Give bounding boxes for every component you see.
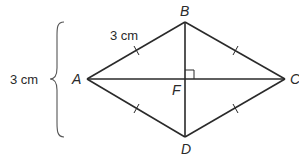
vertex-label-A: A	[71, 71, 81, 87]
vertex-label-D: D	[181, 141, 191, 157]
side-DA	[87, 79, 185, 137]
right-angle-marker	[185, 70, 194, 79]
vertex-label-B: B	[180, 3, 189, 19]
curly-brace	[50, 22, 64, 137]
measurement-side-AB: 3 cm	[110, 28, 138, 43]
vertex-label-C: C	[290, 71, 299, 87]
rhombus-diagram: A B C D F 3 cm 3 cm	[0, 0, 299, 160]
measurement-diagonal-BD: 3 cm	[10, 72, 38, 87]
vertex-label-F: F	[172, 82, 182, 98]
